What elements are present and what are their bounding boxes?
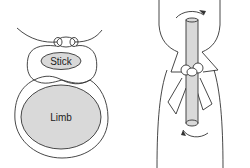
stick-rod-end	[186, 120, 198, 126]
twist-arrow-top	[176, 11, 204, 18]
strap-top-arc	[17, 28, 102, 42]
bow-right-wing	[196, 52, 218, 110]
stick-rod-top	[186, 18, 198, 22]
twist-arrow-bottom	[183, 130, 208, 137]
tourniquet-diagram: Stick Limb	[0, 0, 250, 168]
limb-label: Limb	[50, 112, 72, 123]
knot	[57, 37, 75, 47]
stick-label: Stick	[50, 56, 73, 67]
bow-left-wing	[168, 52, 186, 114]
